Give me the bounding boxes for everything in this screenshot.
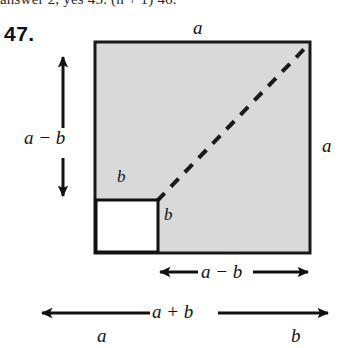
label-bottom-a-plus-b: a + b [152,302,193,321]
label-inner-b-top: b [117,168,126,185]
label-bottom-a-minus-b: a − b [201,262,242,281]
geometry-figure: answer 2, yes 45. (n + 1) 46. 47. [0,0,345,348]
label-inner-b-right: b [164,206,173,223]
label-right-a: a [322,136,332,155]
label-top-a: a [193,18,203,37]
label-bottom-segment-b: b [291,326,301,345]
figure-canvas [0,0,345,348]
inner-white-square [96,200,158,252]
label-bottom-segment-a: a [97,326,107,345]
label-left-a-minus-b: a − b [24,128,65,147]
